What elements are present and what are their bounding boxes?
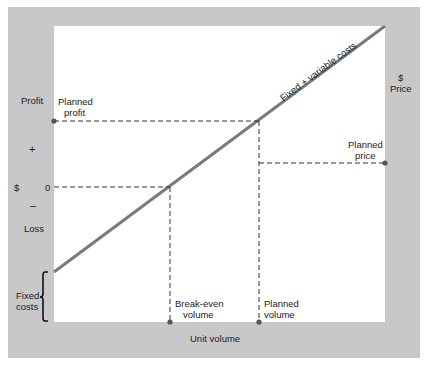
x-axis-label: Unit volume [190,333,240,344]
price-label: Price [390,83,412,94]
break-even-label-line2: volume [183,309,214,320]
fixed-costs-label-line2: costs [16,301,38,312]
planned-volume-label-line1: Planned [264,298,299,309]
zero-label: 0 [45,182,50,193]
plus-label: + [29,144,35,155]
fixed-costs-label-line1: Fixed [16,290,39,301]
planned-price-label-line1: Planned [348,139,383,150]
planned-volume-dot [256,319,261,324]
profit-label: Profit [21,95,43,106]
planned-profit-label-line2: profit [64,107,85,118]
planned-profit-dot [51,118,56,123]
loss-label: Loss [24,223,44,234]
fixed-costs-brace [40,272,48,321]
planned-price-dot [382,160,387,165]
dollar-label-right: $ [398,72,403,83]
planned-volume-label-line2: volume [264,309,295,320]
planned-profit-label-line1: Planned [58,96,93,107]
break-even-dot [167,319,172,324]
planned-price-label-line2: price [355,150,376,161]
dollar-label-left: $ [14,182,19,193]
diagram-graphics [0,0,433,378]
minus-label: – [30,200,36,211]
break-even-label-line1: Break-even [175,298,224,309]
